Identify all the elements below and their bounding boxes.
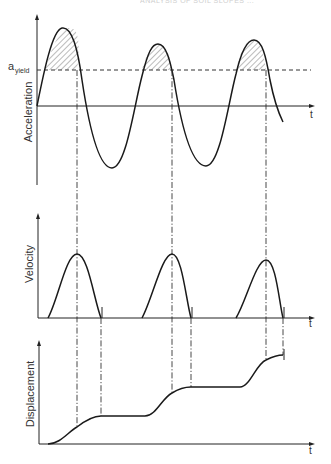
acceleration-t-label: t bbox=[310, 109, 313, 120]
velocity-pulse-2 bbox=[142, 254, 191, 318]
velocity-y-label: Velocity bbox=[23, 245, 35, 283]
newmark-diagram: a yield t Acceleration t Velocity t Disp… bbox=[0, 0, 331, 464]
a-yield-label-main: a bbox=[8, 60, 15, 72]
displacement-t-label: t bbox=[309, 445, 312, 456]
acceleration-y-label: Acceleration bbox=[22, 82, 34, 143]
velocity-t-label: t bbox=[309, 318, 312, 329]
acceleration-panel: a yield t Acceleration bbox=[8, 17, 313, 185]
displacement-curve bbox=[48, 355, 283, 444]
alignment-lines bbox=[77, 70, 283, 427]
displacement-panel: t Displacement bbox=[24, 343, 312, 456]
a-yield-label-sub: yield bbox=[15, 67, 30, 75]
velocity-panel: t Velocity bbox=[23, 216, 312, 329]
velocity-pulse-1 bbox=[48, 254, 101, 318]
velocity-pulse-3 bbox=[236, 260, 283, 318]
displacement-y-label: Displacement bbox=[24, 361, 36, 428]
